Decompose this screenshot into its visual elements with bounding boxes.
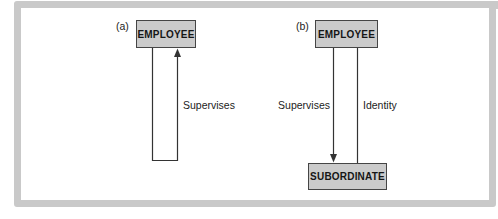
figure-canvas: (a) EMPLOYEE Supervises (b) EMPLOYEE Sup…: [0, 0, 498, 219]
frame-top-rule-extension: [489, 1, 498, 9]
entity-employee-a-name: EMPLOYEE: [137, 29, 194, 40]
entity-employee-a: EMPLOYEE: [136, 20, 196, 48]
panel-b-label: (b): [296, 20, 309, 32]
figure-frame: [14, 1, 496, 207]
panel-a-label: (a): [116, 20, 129, 32]
entity-employee-b: EMPLOYEE: [315, 20, 378, 48]
relationship-supervises-a-label: Supervises: [183, 99, 235, 111]
relationship-supervises-b-label: Supervises: [260, 99, 330, 111]
entity-subordinate-name: SUBORDINATE: [310, 171, 385, 182]
entity-employee-b-name: EMPLOYEE: [318, 29, 375, 40]
relationship-identity-label: Identity: [363, 99, 397, 111]
entity-subordinate: SUBORDINATE: [308, 163, 387, 190]
